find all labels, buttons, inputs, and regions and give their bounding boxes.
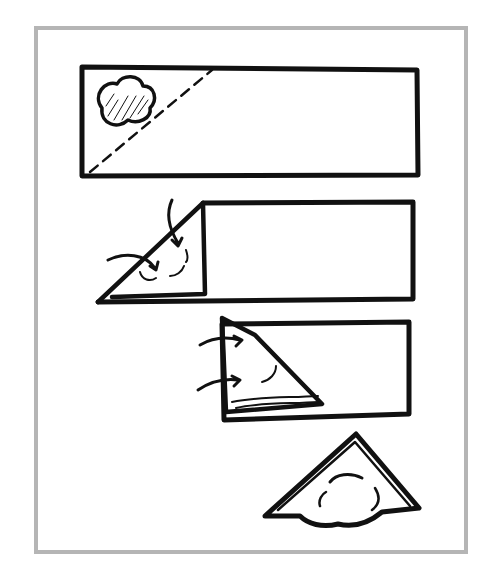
filling-hatching xyxy=(106,94,148,120)
filling-icon xyxy=(98,77,154,125)
filling-bump xyxy=(330,475,362,482)
step-4-finished xyxy=(265,434,419,526)
finished-pastry-outer xyxy=(265,434,419,526)
filling-marks xyxy=(262,366,276,382)
step-2 xyxy=(98,200,413,302)
folding-diagram xyxy=(0,0,493,583)
folded-triangle-2 xyxy=(98,203,205,302)
filling-marks xyxy=(319,488,378,510)
dough-strip-2 xyxy=(98,202,413,302)
step-1 xyxy=(82,67,418,176)
arrow-icon xyxy=(198,376,240,390)
step-3 xyxy=(198,318,409,420)
